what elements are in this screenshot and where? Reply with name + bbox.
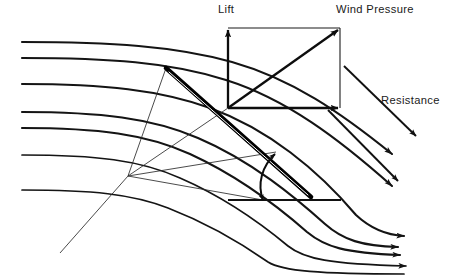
construction-line-to-arc-base xyxy=(128,176,263,200)
force-vector-group xyxy=(228,30,338,108)
sail-outer-edge xyxy=(166,68,311,197)
sail-foil xyxy=(166,68,311,197)
label-lift: Lift xyxy=(218,3,235,15)
streamline-7 xyxy=(22,190,404,274)
wind-pressure-resultant-vector xyxy=(228,30,338,108)
streamline-group xyxy=(22,42,406,274)
resistance-arrow-group xyxy=(328,66,416,181)
aerodynamic-force-diagram: Lift Wind Pressure Resistance xyxy=(0,0,467,278)
label-resistance: Resistance xyxy=(381,94,440,106)
diagram-canvas: Lift Wind Pressure Resistance xyxy=(0,0,467,278)
resistance-arrow-lower xyxy=(328,110,398,181)
label-wind-pressure: Wind Pressure xyxy=(336,3,414,15)
construction-line-extension xyxy=(60,176,128,253)
construction-line-to-tip xyxy=(128,68,166,176)
construction-line-to-arc-top xyxy=(128,152,276,176)
